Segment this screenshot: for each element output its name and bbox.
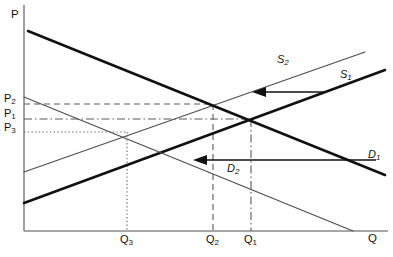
quantity-label-q2: Q2 [206,234,219,245]
x-axis-label-text: Q [368,232,377,244]
quantity-label-q1-base: Q [244,233,253,245]
demand-shift-arrow [193,155,376,165]
supply-demand-diagram: P Q P2 P1 P3 Q3 Q2 Q1 S2 S1 D1 D2 [0,0,393,257]
curve-label-s1-sub: 1 [347,73,351,82]
quantity-label-q1: Q1 [244,234,257,245]
curve-label-d2: D2 [227,163,239,174]
curve-label-d1: D1 [368,149,380,160]
curve-label-d2-sub: 2 [235,167,239,176]
curve-demand-d2 [24,97,353,231]
x-axis-label: Q [368,233,377,245]
plot-canvas [0,0,393,257]
quantity-label-q3: Q3 [120,234,133,245]
curve-label-d1-sub: 1 [376,153,380,162]
price-label-p1: P1 [4,108,16,119]
quantity-label-q2-base: Q [206,233,215,245]
curve-supply-s2 [24,52,365,172]
curve-demand-d1 [28,31,385,175]
y-axis-label: P [11,9,19,21]
price-label-p3: P3 [4,122,16,133]
curve-label-d2-base: D [227,162,235,174]
curve-label-d1-base: D [368,148,376,160]
curve-label-s2: S2 [277,54,289,65]
price-label-p2: P2 [4,93,16,104]
price-label-p1-sub: 1 [11,112,15,121]
curve-label-s2-sub: 2 [284,58,288,67]
quantity-label-q3-sub: 3 [129,238,133,247]
curve-label-s1: S1 [340,69,352,80]
quantity-label-q1-sub: 1 [253,238,257,247]
curve-supply-s1 [24,70,385,203]
price-label-p3-sub: 3 [11,126,15,135]
y-axis-label-text: P [11,8,19,20]
price-label-p2-sub: 2 [11,97,15,106]
quantity-label-q3-base: Q [120,233,129,245]
quantity-label-q2-sub: 2 [215,238,219,247]
